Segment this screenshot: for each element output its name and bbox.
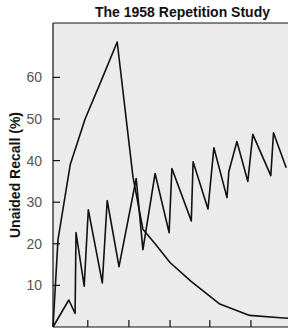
y-tick-label: 40: [26, 153, 42, 169]
chart-title: The 1958 Repetition Study: [95, 4, 270, 20]
y-tick-label: 20: [26, 236, 42, 252]
line-chart: The 1958 Repetition Study 102030405060 U…: [0, 0, 291, 335]
y-tick-label: 10: [26, 277, 42, 293]
y-tick-label: 50: [26, 111, 42, 127]
y-tick-label: 60: [26, 69, 42, 85]
y-tick-label: 30: [26, 194, 42, 210]
plot-background: [53, 23, 288, 327]
y-axis-label: Unaided Recall (%): [7, 112, 23, 238]
